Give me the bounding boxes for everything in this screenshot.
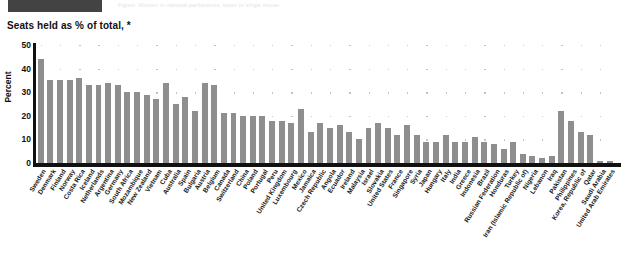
bar[interactable]	[47, 80, 53, 163]
grid-dot	[465, 69, 466, 70]
grid-dot	[330, 116, 331, 117]
bar[interactable]	[231, 113, 237, 163]
bar[interactable]	[202, 83, 208, 163]
bar[interactable]	[67, 80, 73, 163]
bar[interactable]	[250, 116, 256, 163]
header-caption: Figure: Women in national parliaments, l…	[118, 0, 618, 10]
grid-dot	[388, 92, 389, 93]
bar[interactable]	[433, 142, 439, 163]
grid-dot	[118, 69, 119, 70]
grid-dot	[214, 45, 215, 46]
grid-dot	[426, 92, 427, 93]
bar[interactable]	[385, 128, 391, 163]
grid-dot	[484, 139, 485, 140]
bar[interactable]	[481, 142, 487, 163]
bar[interactable]	[221, 113, 227, 163]
bar[interactable]	[607, 161, 613, 163]
bar[interactable]	[134, 92, 140, 163]
bar[interactable]	[472, 137, 478, 163]
grid-dot	[291, 92, 292, 93]
bar[interactable]	[38, 59, 44, 163]
bar[interactable]	[375, 123, 381, 163]
grid-dot	[581, 116, 582, 117]
bar[interactable]	[337, 125, 343, 163]
grid-dot	[311, 116, 312, 117]
grid-dot	[446, 92, 447, 93]
bar[interactable]	[317, 123, 323, 163]
bar[interactable]	[327, 128, 333, 163]
bar[interactable]	[192, 111, 198, 163]
grid-dot	[349, 45, 350, 46]
bar[interactable]	[423, 142, 429, 163]
bar[interactable]	[462, 142, 468, 163]
bar[interactable]	[366, 128, 372, 163]
bar[interactable]	[163, 83, 169, 163]
bar[interactable]	[539, 158, 545, 163]
bar[interactable]	[394, 135, 400, 163]
grid-dot	[41, 45, 42, 46]
bar[interactable]	[578, 132, 584, 163]
grid-dot	[234, 69, 235, 70]
bar[interactable]	[501, 149, 507, 163]
bar[interactable]	[96, 85, 102, 163]
bar[interactable]	[279, 121, 285, 163]
grid-dot	[523, 139, 524, 140]
grid-dot	[484, 116, 485, 117]
bar[interactable]	[452, 142, 458, 163]
bar[interactable]	[298, 109, 304, 163]
bar[interactable]	[153, 99, 159, 163]
bar[interactable]	[259, 116, 265, 163]
bar[interactable]	[115, 85, 121, 163]
grid-dot	[542, 116, 543, 117]
grid-dot	[504, 45, 505, 46]
bar[interactable]	[288, 123, 294, 163]
grid-dot	[98, 45, 99, 46]
grid-dot	[542, 92, 543, 93]
bar[interactable]	[346, 132, 352, 163]
bar[interactable]	[240, 116, 246, 163]
bar[interactable]	[597, 161, 603, 163]
grid-dot	[600, 45, 601, 46]
bar[interactable]	[529, 156, 535, 163]
grid-dot	[504, 92, 505, 93]
bar[interactable]	[568, 121, 574, 163]
grid-dot	[349, 69, 350, 70]
bar[interactable]	[443, 135, 449, 163]
grid-dot	[465, 45, 466, 46]
bar[interactable]	[510, 142, 516, 163]
grid-dot	[407, 69, 408, 70]
bar[interactable]	[356, 139, 362, 163]
bar[interactable]	[76, 78, 82, 163]
bar[interactable]	[308, 132, 314, 163]
grid-dot	[388, 116, 389, 117]
grid-dot	[484, 45, 485, 46]
bar[interactable]	[491, 144, 497, 163]
grid-dot	[349, 92, 350, 93]
bar[interactable]	[558, 111, 564, 163]
bar[interactable]	[549, 156, 555, 163]
grid-dot	[98, 69, 99, 70]
bar[interactable]	[269, 121, 275, 163]
bar[interactable]	[414, 135, 420, 163]
bar[interactable]	[86, 85, 92, 163]
grid-dot	[60, 69, 61, 70]
grid-dot	[291, 116, 292, 117]
grid-dot	[156, 92, 157, 93]
bar[interactable]	[520, 154, 526, 163]
grid-dot	[176, 45, 177, 46]
grid-dot	[600, 139, 601, 140]
bar[interactable]	[182, 97, 188, 163]
bar[interactable]	[211, 85, 217, 163]
bar[interactable]	[404, 125, 410, 163]
grid-dot	[426, 45, 427, 46]
bar[interactable]	[124, 92, 130, 163]
bar[interactable]	[144, 95, 150, 163]
bar[interactable]	[57, 80, 63, 163]
y-tick-0: 0	[5, 158, 31, 168]
grid-dot	[137, 69, 138, 70]
bar[interactable]	[587, 135, 593, 163]
grid-dot	[330, 92, 331, 93]
grid-dot	[388, 69, 389, 70]
bar[interactable]	[173, 104, 179, 163]
bar[interactable]	[105, 83, 111, 163]
